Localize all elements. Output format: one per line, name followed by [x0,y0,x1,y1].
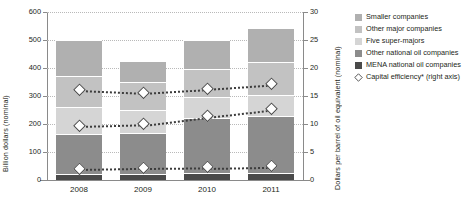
y-tick-right [304,40,308,41]
legend-swatch-icon [355,14,362,21]
y-tick-right [304,12,308,13]
chart-root: Billion dollars (nominal) Dollars per ba… [0,0,463,212]
legend-swatch-icon [355,26,362,33]
y-tick-label-right: 5 [310,147,334,156]
x-axis-label-2010: 2010 [177,185,237,194]
y-tick-label-right: 15 [310,91,334,100]
y-tick-right [304,68,308,69]
bar-2011 [248,12,294,180]
y-tick-label-right: 30 [310,7,334,16]
legend-item[interactable]: Smaller companies [355,13,461,22]
y-tick-label-right: 20 [310,63,334,72]
y-tick-label-left: 500 [9,35,41,44]
y-tick-right [304,124,308,125]
bar-segment [56,40,102,76]
diamond-icon [354,74,363,83]
bar-segment [184,173,230,180]
legend-item-label: Capital efficiency* (right axis) [366,73,460,82]
bar-segment [248,173,294,180]
bar-segment [120,174,166,180]
legend-swatch-icon [355,38,362,45]
legend-item[interactable]: Other major companies [355,25,461,34]
y-tick-label-left: 100 [9,147,41,156]
legend-item-label: MENA national oil companies [366,61,461,70]
y-tick-label-left: 300 [9,91,41,100]
chart-legend: Smaller companiesOther major companiesFi… [355,13,461,86]
bar-segment [184,40,230,69]
y-tick-label-right: 10 [310,119,334,128]
legend-item[interactable]: Five super-majors [355,37,461,46]
legend-item-label: Other major companies [366,25,442,34]
y-tick-label-right: 0 [310,175,334,184]
legend-item[interactable]: Other national oil companies [355,49,461,58]
legend-item-label: Smaller companies [366,13,428,22]
bar-segment [120,61,166,82]
legend-swatch-icon [355,50,362,57]
legend-item-label: Five super-majors [366,37,424,46]
bar-2010 [184,12,230,180]
legend-item-label: Other national oil companies [366,49,458,58]
y-tick-label-left: 400 [9,63,41,72]
y-tick-label-right: 25 [310,35,334,44]
y-tick-right [304,152,308,153]
x-axis-label-2009: 2009 [113,185,173,194]
y-tick-label-left: 200 [9,119,41,128]
y-tick-left [43,180,47,181]
legend-item[interactable]: Capital efficiency* (right axis) [355,73,461,82]
y-tick-label-left: 0 [9,175,41,184]
y-axis-title-right: Dollars per barrel of oil equivalent (no… [333,14,342,190]
plot-area [47,12,303,180]
legend-swatch-icon [355,62,362,69]
y-tick-label-left: 600 [9,7,41,16]
y-tick-right [304,180,308,181]
x-axis-label-2011: 2011 [241,185,301,194]
y-tick-right [304,96,308,97]
x-axis-line [40,180,310,181]
bar-segment [248,28,294,63]
x-axis-label-2008: 2008 [49,185,109,194]
legend-item[interactable]: MENA national oil companies [355,61,461,70]
